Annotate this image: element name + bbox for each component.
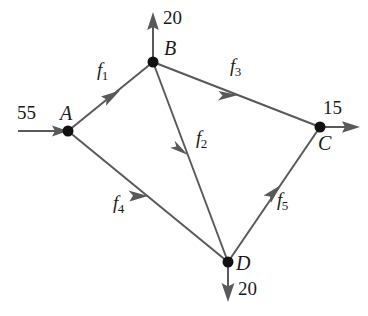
node-d-dot	[223, 257, 234, 268]
outflow-arrow-b	[147, 12, 159, 60]
edge-label-f1: f1	[97, 60, 108, 82]
outflow-value-b: 20	[163, 8, 182, 27]
inflow-value-a: 55	[17, 103, 36, 122]
edge-label-f2-subscript: 2	[201, 136, 208, 151]
outflow-value-d: 20	[238, 279, 257, 298]
inflow-arrow-a	[18, 126, 68, 137]
edge-label-f2: f2	[196, 128, 207, 150]
edge-label-f5: f5	[277, 190, 288, 212]
node-b-dot	[148, 57, 159, 68]
edge-label-f4: f4	[113, 193, 124, 215]
edge-label-f5-subscript: 5	[282, 198, 289, 213]
node-label-a: A	[60, 103, 72, 123]
edge-label-f3-subscript: 3	[235, 64, 242, 79]
edge-f5	[228, 127, 320, 262]
outflow-value-c: 15	[323, 98, 342, 117]
flow-network-canvas	[0, 0, 368, 316]
edge-label-f4-subscript: 4	[118, 201, 125, 216]
edge-f1	[68, 62, 153, 131]
node-a-dot	[63, 126, 74, 137]
node-label-b: B	[164, 38, 176, 58]
node-label-c: C	[318, 133, 331, 153]
edge-label-f1-subscript: 1	[102, 68, 109, 83]
outflow-arrow-d	[222, 264, 235, 302]
node-label-d: D	[236, 253, 250, 273]
node-c-dot	[315, 122, 326, 133]
edge-label-f3: f3	[230, 56, 241, 78]
flow-network-diagram: A B C D f1 f2 f3 f4 f5 55 20 15 20	[0, 0, 368, 316]
